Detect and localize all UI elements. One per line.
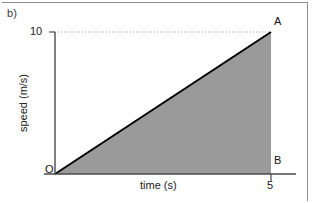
x-axis-title: time (s) xyxy=(140,179,177,191)
point-label-origin: O xyxy=(45,163,54,175)
point-label-a: A xyxy=(274,15,281,27)
y-axis-tick-label-10: 10 xyxy=(30,25,42,37)
point-label-b: B xyxy=(274,154,281,166)
speed-time-graph-figure: b) 10 5 time (s) speed (m/s) A B O xyxy=(0,0,321,203)
x-axis-tick-label-5: 5 xyxy=(267,179,273,191)
y-axis-title: speed (m/s) xyxy=(17,58,29,148)
